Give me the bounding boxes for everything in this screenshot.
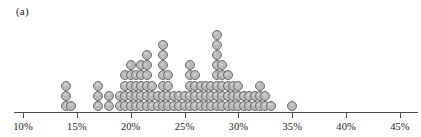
data-dot (233, 81, 243, 91)
data-dot (260, 91, 270, 101)
data-dot (93, 81, 103, 91)
x-axis-tick-label: 10% (13, 120, 33, 133)
x-axis-tick (77, 112, 78, 118)
data-dot (142, 60, 152, 70)
data-dot (104, 101, 114, 111)
plot-area: 10%15%20%25%30%35%40%45% (0, 0, 421, 137)
x-axis-tick (131, 112, 132, 118)
data-dot (147, 81, 157, 91)
x-axis-tick-label: 35% (282, 120, 302, 133)
data-dot (158, 60, 168, 70)
x-axis-tick-label: 15% (67, 120, 87, 133)
x-axis-tick (292, 112, 293, 118)
data-dot (217, 60, 227, 70)
x-axis-tick-label: 45% (390, 120, 410, 133)
x-axis-tick-label: 30% (229, 120, 249, 133)
data-dot (61, 91, 71, 101)
data-dot (158, 40, 168, 50)
data-dot (142, 50, 152, 60)
data-dot (142, 70, 152, 80)
data-dot (126, 60, 136, 70)
data-dot (185, 60, 195, 70)
data-dot (212, 40, 222, 50)
x-axis-tick (346, 112, 347, 118)
x-axis-tick-label: 40% (336, 120, 356, 133)
data-dot (163, 81, 173, 91)
x-axis-tick-label: 20% (121, 120, 141, 133)
data-dot (266, 101, 276, 111)
data-dot (61, 81, 71, 91)
data-dot (93, 101, 103, 111)
data-dot (212, 30, 222, 40)
dot-plot-figure: (a) 10%15%20%25%30%35%40%45% (0, 0, 421, 137)
data-dot (93, 91, 103, 101)
x-axis-tick-label: 25% (175, 120, 195, 133)
x-axis-line (14, 112, 418, 113)
data-dot (223, 70, 233, 80)
data-dot (163, 70, 173, 80)
x-axis-tick (185, 112, 186, 118)
x-axis-tick (238, 112, 239, 118)
data-dot (212, 50, 222, 60)
data-dot (104, 91, 114, 101)
data-dot (66, 101, 76, 111)
x-axis-tick (23, 112, 24, 118)
x-axis-tick (400, 112, 401, 118)
data-dot (158, 50, 168, 60)
data-dot (190, 70, 200, 80)
data-dot (255, 81, 265, 91)
data-dot (287, 101, 297, 111)
